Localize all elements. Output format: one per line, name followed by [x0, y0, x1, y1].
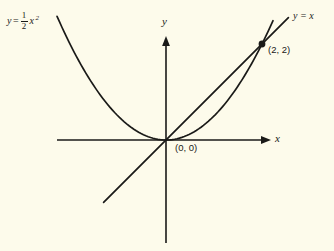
- x-axis-label: x: [275, 133, 280, 144]
- parabola-label-y: y: [7, 16, 11, 26]
- parabola-curve: [57, 16, 273, 140]
- origin-point-label: (0, 0): [175, 143, 197, 153]
- parabola-label-equals: =: [13, 16, 19, 26]
- coordinate-plot: [0, 0, 334, 251]
- parabola-equation-label: y = 1 2 x2: [7, 11, 39, 32]
- intersection-point-marker: [259, 41, 266, 48]
- parabola-path: [57, 16, 273, 140]
- line-equation-label: y = x: [293, 11, 314, 21]
- y-axis-label: y: [162, 16, 167, 27]
- graph-figure: y x (0, 0) (2, 2) y = 1 2 x2 y = x: [0, 0, 334, 251]
- one-half-fraction: 1 2: [21, 11, 28, 32]
- intersection-point-label: (2, 2): [268, 45, 290, 55]
- parabola-label-exponent: 2: [36, 15, 40, 22]
- fraction-numerator: 1: [21, 11, 28, 20]
- fraction-denominator: 2: [21, 22, 28, 31]
- parabola-label-x: x: [30, 16, 34, 26]
